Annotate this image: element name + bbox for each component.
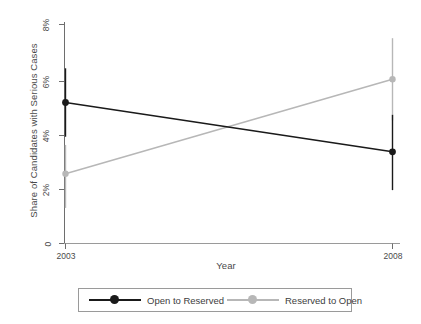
legend-item-open-to-reserved: Open to Reserved	[89, 289, 224, 311]
chart-plot-area	[0, 0, 421, 324]
y-tick-label-4: 4%	[41, 121, 51, 151]
x-tick-label-2008: 2008	[373, 251, 413, 261]
x-tick-label-2003: 2003	[46, 251, 86, 261]
y-axis-title: Share of Candidates with Serious Cases	[28, 21, 39, 241]
y-axis-ticks	[59, 25, 65, 244]
series-reserved-to-open	[62, 38, 395, 208]
x-axis-ticks	[66, 244, 393, 250]
x-axis-title: Year	[196, 260, 256, 271]
y-tick-label-8: 8%	[41, 10, 51, 40]
legend-label-reserved-to-open: Reserved to Open	[285, 295, 362, 306]
chart-figure: 8% 6% 4% 2% 0 2003 2008 Share of Candida…	[0, 0, 421, 324]
y-tick-label-6: 6%	[41, 67, 51, 97]
legend-swatch-reserved-to-open	[227, 294, 279, 306]
chart-legend: Open to Reserved Reserved to Open	[78, 288, 352, 312]
series-open-to-reserved	[62, 68, 396, 190]
y-tick-label-2: 2%	[41, 175, 51, 205]
legend-label-open-to-reserved: Open to Reserved	[147, 295, 224, 306]
legend-item-reserved-to-open: Reserved to Open	[227, 289, 362, 311]
legend-swatch-open-to-reserved	[89, 294, 141, 306]
